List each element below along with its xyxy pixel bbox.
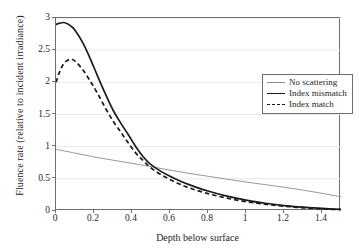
- y-axis-tick-label: 0.5: [16, 173, 50, 183]
- plot-area: No scattering Index mismatch Index match: [55, 17, 340, 210]
- series-line-no-scattering: [56, 149, 341, 197]
- x-axis-tick-label: 0.8: [187, 213, 227, 223]
- chart-figure: Fluence rate (relative to incident irrad…: [0, 0, 359, 251]
- legend-box: No scattering Index mismatch Index match: [262, 74, 353, 114]
- x-axis-tick-label: 0.2: [73, 213, 113, 223]
- y-axis-tick-label: 1: [16, 141, 50, 151]
- x-axis-tick-label: 0: [35, 213, 75, 223]
- legend-item-index-match: Index match: [266, 99, 349, 110]
- plot-svg: [56, 18, 341, 211]
- legend-swatch-line-icon: [266, 89, 286, 98]
- legend-label: Index mismatch: [289, 88, 347, 99]
- x-axis-tick-label: 1.2: [263, 213, 303, 223]
- legend-label: Index match: [289, 99, 334, 110]
- x-axis-tick-label: 0.4: [111, 213, 151, 223]
- x-axis-tick-label: 1: [225, 213, 265, 223]
- legend-label: No scattering: [289, 77, 337, 88]
- y-axis-tick-label: 1.5: [16, 109, 50, 119]
- legend-item-index-mismatch: Index mismatch: [266, 88, 349, 99]
- legend-swatch-line-icon: [266, 78, 286, 87]
- legend-swatch-dashed-line-icon: [266, 100, 286, 109]
- y-axis-tick-label: 2.5: [16, 44, 50, 54]
- y-axis-tick-label: 3: [16, 12, 50, 22]
- y-axis-tick-label: 2: [16, 76, 50, 86]
- x-axis-tick-label: 1.4: [301, 213, 341, 223]
- x-axis-title: Depth below surface: [55, 232, 340, 243]
- x-axis-tick-label: 0.6: [149, 213, 189, 223]
- legend-item-no-scattering: No scattering: [266, 77, 349, 88]
